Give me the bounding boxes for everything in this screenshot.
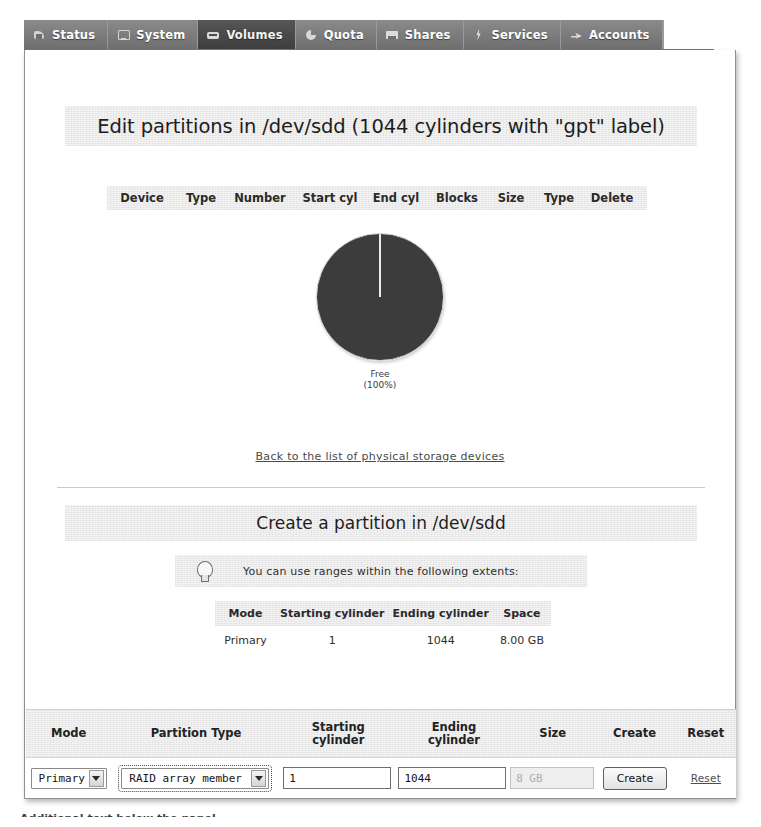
arrow-icon bbox=[570, 29, 583, 41]
pie-slice-divider bbox=[379, 234, 381, 297]
col-end-cyl: End cyl bbox=[365, 191, 427, 205]
pie-legend-percent: (100%) bbox=[364, 380, 397, 391]
tab-quota[interactable]: Quota bbox=[296, 20, 377, 49]
mode-cell: Primary bbox=[26, 768, 111, 789]
ending-cylinder-cell bbox=[395, 767, 510, 789]
form-col-mode: Mode bbox=[26, 727, 111, 740]
drive-icon bbox=[207, 29, 220, 41]
monitor-icon bbox=[117, 29, 130, 41]
extents-cell-start: 1 bbox=[276, 626, 388, 655]
table-row: Primary 1 1044 8.00 GB bbox=[215, 626, 551, 655]
extents-col-end: Ending cylinder bbox=[388, 601, 492, 626]
pie-slice-free bbox=[316, 233, 444, 361]
form-col-size: Size bbox=[512, 727, 594, 740]
tab-accounts-label: Accounts bbox=[589, 28, 650, 42]
tab-services-label: Services bbox=[492, 28, 548, 42]
mode-select[interactable]: Primary bbox=[31, 768, 107, 789]
starting-cylinder-cell bbox=[280, 767, 395, 789]
size-input bbox=[510, 767, 594, 789]
extents-col-space: Space bbox=[493, 601, 551, 626]
size-cell bbox=[510, 767, 594, 789]
hint-text: You can use ranges within the following … bbox=[243, 565, 519, 578]
lightbulb-icon bbox=[191, 558, 217, 584]
col-device: Device bbox=[107, 191, 177, 205]
content-panel: Edit partitions in /dev/sdd (1044 cylind… bbox=[24, 50, 736, 799]
extents-table: Mode Starting cylinder Ending cylinder S… bbox=[215, 601, 551, 655]
col-delete: Delete bbox=[583, 191, 641, 205]
tab-system[interactable]: System bbox=[108, 20, 198, 49]
page-root: Status System Volumes Quota Shares Servi… bbox=[0, 0, 761, 827]
tab-volumes-label: Volumes bbox=[226, 28, 282, 42]
tab-system-label: System bbox=[136, 28, 185, 42]
tab-shares[interactable]: Shares bbox=[377, 20, 464, 49]
tab-shares-label: Shares bbox=[405, 28, 451, 42]
pie-chart-legend: Free (100%) bbox=[364, 369, 397, 391]
create-button[interactable]: Create bbox=[603, 767, 667, 790]
create-cell: Create bbox=[594, 767, 676, 790]
hint-bar: You can use ranges within the following … bbox=[175, 555, 587, 587]
form-col-reset: Reset bbox=[676, 727, 737, 740]
pie-icon bbox=[305, 29, 318, 41]
cut-off-text-below-panel: Additional text below the panel bbox=[20, 812, 460, 824]
col-blocks: Blocks bbox=[427, 191, 487, 205]
back-link-container: Back to the list of physical storage dev… bbox=[25, 445, 735, 464]
partition-type-select-value: RAID array member bbox=[129, 772, 242, 785]
create-partition-form: Primary RAID array member Create bbox=[26, 757, 736, 798]
form-col-starting-line2: cylinder bbox=[312, 733, 364, 747]
col-number: Number bbox=[225, 191, 295, 205]
pie-legend-name: Free bbox=[364, 369, 397, 380]
bolt-icon bbox=[473, 29, 486, 41]
tab-status[interactable]: Status bbox=[24, 20, 108, 49]
extents-cell-end: 1044 bbox=[388, 626, 492, 655]
section-divider bbox=[57, 487, 705, 488]
form-col-ending-cylinder: Ending cylinder bbox=[396, 721, 512, 747]
back-to-storage-devices-link[interactable]: Back to the list of physical storage dev… bbox=[256, 450, 505, 463]
tab-accounts[interactable]: Accounts bbox=[561, 20, 663, 49]
disk-usage-pie-chart: Free (100%) bbox=[25, 233, 735, 391]
tab-services[interactable]: Services bbox=[464, 20, 561, 49]
col-type: Type bbox=[177, 191, 225, 205]
folder-icon bbox=[386, 29, 399, 41]
col-size: Size bbox=[487, 191, 535, 205]
form-col-starting-line1: Starting bbox=[312, 720, 365, 734]
ending-cylinder-input[interactable] bbox=[398, 767, 506, 789]
extents-col-mode: Mode bbox=[215, 601, 276, 626]
form-col-partition-type: Partition Type bbox=[111, 727, 280, 740]
form-col-ending-line1: Ending bbox=[432, 720, 477, 734]
reset-cell: Reset bbox=[676, 772, 736, 784]
extents-col-start: Starting cylinder bbox=[276, 601, 388, 626]
create-partition-heading: Create a partition in /dev/sdd bbox=[65, 505, 697, 541]
tab-quota-label: Quota bbox=[324, 28, 364, 42]
form-col-starting-cylinder: Starting cylinder bbox=[280, 721, 396, 747]
tab-status-label: Status bbox=[52, 28, 95, 42]
page-title: Edit partitions in /dev/sdd (1044 cylind… bbox=[65, 106, 697, 146]
extents-cell-mode: Primary bbox=[215, 626, 276, 655]
chevron-down-icon bbox=[89, 770, 104, 787]
extents-header-row: Mode Starting cylinder Ending cylinder S… bbox=[215, 601, 551, 626]
starting-cylinder-input[interactable] bbox=[283, 767, 391, 789]
status-icon bbox=[33, 29, 46, 41]
tab-volumes[interactable]: Volumes bbox=[198, 20, 295, 49]
col-start-cyl: Start cyl bbox=[295, 191, 365, 205]
form-col-ending-line2: cylinder bbox=[428, 733, 480, 747]
extents-cell-space: 8.00 GB bbox=[493, 626, 551, 655]
mode-select-value: Primary bbox=[39, 772, 85, 785]
main-navigation-tabs: Status System Volumes Quota Shares Servi… bbox=[24, 20, 714, 50]
col-type-2: Type bbox=[535, 191, 583, 205]
partition-table-header: Device Type Number Start cyl End cyl Blo… bbox=[107, 186, 647, 210]
tabbar-filler bbox=[663, 20, 714, 49]
create-form-header: Mode Partition Type Starting cylinder En… bbox=[26, 709, 736, 757]
form-col-create: Create bbox=[594, 727, 676, 740]
partition-type-select[interactable]: RAID array member bbox=[121, 768, 269, 789]
partition-type-cell: RAID array member bbox=[111, 768, 279, 789]
chevron-down-icon bbox=[251, 770, 266, 787]
reset-link[interactable]: Reset bbox=[691, 772, 721, 784]
